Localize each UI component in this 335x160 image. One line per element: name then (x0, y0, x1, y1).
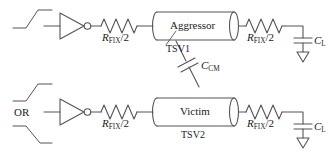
victim-load-capacitor-icon (294, 124, 312, 138)
aggressor-wire-to-load (282, 26, 303, 38)
aggressor-load-capacitor-label: CL (314, 35, 326, 48)
victim-left-resistor-label: RFIX/2 (102, 118, 129, 131)
aggressor-load-capacitor-icon (294, 38, 312, 52)
victim-wire-to-load (282, 112, 303, 124)
schematic-svg (0, 0, 335, 160)
victim-right-resistor-label: RFIX/2 (247, 118, 274, 131)
aggressor-inverter-icon (60, 13, 91, 39)
aggressor-input-waveform-rising (13, 10, 52, 28)
aggressor-right-resistor-label: RFIX/2 (247, 32, 274, 45)
victim-tsv-block-label: Victim (180, 106, 210, 117)
coupling-capacitor-icon (178, 58, 198, 72)
victim-input-waveform-falling (13, 126, 52, 143)
victim-load-capacitor-label: CL (314, 121, 326, 134)
aggressor-tsv-block-label: Aggressor (170, 20, 215, 31)
tsv2-label: TSV2 (181, 130, 205, 140)
coupling-capacitor-label: CCM (201, 60, 220, 73)
circuit-diagram-canvas: RFIX/2 Aggressor TSV1 RFIX/2 CL CCM OR R… (0, 0, 335, 160)
victim-inverter-icon (60, 99, 91, 125)
victim-ground-icon (297, 138, 309, 148)
victim-input-or-label: OR (14, 107, 29, 118)
victim-input-waveform-rising (13, 84, 52, 101)
aggressor-ground-icon (297, 52, 309, 62)
tsv1-label: TSV1 (166, 44, 190, 54)
aggressor-left-resistor-label: RFIX/2 (102, 32, 129, 45)
